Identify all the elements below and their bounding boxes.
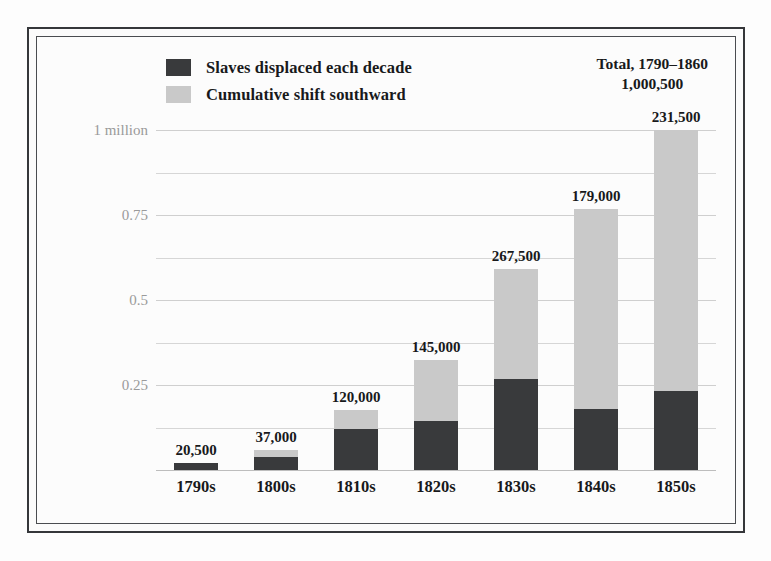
bar-stack[interactable]: 179,0001840s bbox=[574, 209, 618, 470]
bar-segment-displaced[interactable] bbox=[174, 463, 218, 470]
x-axis-category-label: 1820s bbox=[416, 477, 455, 497]
bar-group[interactable]: 179,0001840s bbox=[574, 209, 618, 470]
x-axis-category-label: 1830s bbox=[496, 477, 535, 497]
bar-segment-displaced[interactable] bbox=[334, 429, 378, 470]
bar-group[interactable]: 231,5001850s bbox=[654, 130, 698, 470]
bar-segment-displaced[interactable] bbox=[254, 457, 298, 470]
bar-segment-displaced[interactable] bbox=[494, 379, 538, 470]
gridline-major bbox=[156, 300, 716, 301]
bar-value-label: 37,000 bbox=[255, 429, 296, 446]
bar-value-label: 20,500 bbox=[175, 442, 216, 459]
gridline-major bbox=[156, 215, 716, 216]
bar-segment-cumulative[interactable] bbox=[334, 410, 378, 430]
x-axis-category-label: 1810s bbox=[336, 477, 375, 497]
bar-stack[interactable]: 145,0001820s bbox=[414, 360, 458, 470]
bar-group[interactable]: 37,0001800s bbox=[254, 450, 298, 470]
gridline-minor bbox=[156, 258, 716, 259]
gridline-major bbox=[156, 130, 716, 131]
stacked-bar-chart: 0.250.50.751 million20,5001790s37,000180… bbox=[36, 36, 736, 524]
bar-segment-cumulative[interactable] bbox=[414, 360, 458, 420]
figure-plot-area: Slaves displaced each decade Cumulative … bbox=[36, 36, 736, 524]
gridline-minor bbox=[156, 173, 716, 174]
bar-value-label: 120,000 bbox=[332, 389, 381, 406]
x-axis-category-label: 1790s bbox=[176, 477, 215, 497]
y-axis-tick-label: 0.75 bbox=[122, 207, 148, 224]
bar-group[interactable]: 20,5001790s bbox=[174, 463, 218, 470]
bar-group[interactable]: 267,5001830s bbox=[494, 269, 538, 470]
bar-value-label: 231,500 bbox=[652, 109, 701, 126]
y-axis-tick-label: 1 million bbox=[93, 122, 148, 139]
bar-segment-cumulative[interactable] bbox=[494, 269, 538, 379]
bar-stack[interactable]: 267,5001830s bbox=[494, 269, 538, 470]
bar-segment-cumulative[interactable] bbox=[574, 209, 618, 410]
bar-segment-displaced[interactable] bbox=[654, 391, 698, 470]
bar-segment-cumulative[interactable] bbox=[254, 450, 298, 457]
y-axis-tick-label: 0.25 bbox=[122, 377, 148, 394]
bar-value-label: 267,500 bbox=[492, 248, 541, 265]
bar-stack[interactable]: 120,0001810s bbox=[334, 410, 378, 470]
bar-segment-displaced[interactable] bbox=[414, 421, 458, 470]
bar-stack[interactable]: 37,0001800s bbox=[254, 450, 298, 470]
axis-baseline bbox=[156, 470, 716, 471]
x-axis-category-label: 1840s bbox=[576, 477, 615, 497]
x-axis-category-label: 1850s bbox=[656, 477, 695, 497]
bar-value-label: 179,000 bbox=[572, 188, 621, 205]
bar-segment-displaced[interactable] bbox=[574, 409, 618, 470]
bar-group[interactable]: 120,0001810s bbox=[334, 410, 378, 470]
bar-stack[interactable]: 20,5001790s bbox=[174, 463, 218, 470]
y-axis-tick-label: 0.5 bbox=[129, 292, 148, 309]
x-axis-category-label: 1800s bbox=[256, 477, 295, 497]
bar-segment-cumulative[interactable] bbox=[654, 130, 698, 391]
bar-group[interactable]: 145,0001820s bbox=[414, 360, 458, 470]
bar-value-label: 145,000 bbox=[412, 339, 461, 356]
bar-stack[interactable]: 231,5001850s bbox=[654, 130, 698, 470]
figure-page: Slaves displaced each decade Cumulative … bbox=[0, 0, 771, 561]
